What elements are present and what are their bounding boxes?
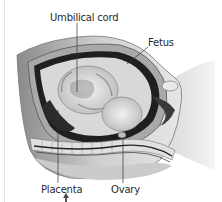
label-ovary: Ovary bbox=[111, 184, 140, 195]
label-fetus: Fetus bbox=[148, 37, 174, 48]
pregnancy-illustration bbox=[0, 0, 222, 202]
up-arrow-stem bbox=[65, 197, 67, 202]
label-placenta: Placenta bbox=[41, 184, 82, 195]
label-umbilical-cord: Umbilical cord bbox=[50, 12, 118, 23]
